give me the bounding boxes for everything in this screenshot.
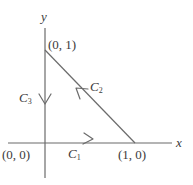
curve-label-c1-letter: C	[68, 146, 77, 161]
point-label-origin: (0, 0)	[2, 148, 30, 161]
curve-label-c2-subscript: 2	[99, 86, 103, 95]
curve-c1-arrowhead	[83, 133, 93, 144]
curve-label-c3-letter: C	[19, 90, 28, 105]
point-label-zero-one: (0, 1)	[48, 38, 76, 51]
curve-label-c3-subscript: 3	[28, 97, 32, 106]
curve-label-c2: C2	[90, 80, 103, 93]
contour-triangle-figure: (0, 0) (0, 1) (1, 0) x y C1 C2 C3	[0, 0, 193, 185]
curve-label-c2-letter: C	[90, 79, 99, 94]
curve-label-c3: C3	[19, 91, 32, 104]
y-axis-label: y	[41, 10, 47, 23]
curve-c2-segment	[45, 50, 135, 143]
x-axis-label: x	[176, 136, 182, 149]
curve-label-c1-subscript: 1	[77, 153, 81, 162]
curve-c2-arrowhead	[76, 88, 88, 99]
point-label-one-zero: (1, 0)	[118, 148, 146, 161]
curve-label-c1: C1	[68, 147, 81, 160]
